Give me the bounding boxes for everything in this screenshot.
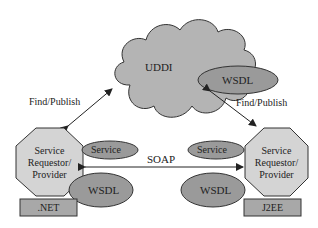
uddi-label: UDDI bbox=[145, 62, 173, 73]
right-find-publish-label: Find/Publish bbox=[236, 98, 287, 108]
left-service-label: Service bbox=[91, 145, 121, 155]
left-node-line-3: Provider bbox=[16, 169, 83, 181]
diagram-canvas bbox=[0, 0, 318, 228]
right-wsdl-label: WSDL bbox=[200, 185, 231, 196]
left-find-publish-label: Find/Publish bbox=[29, 97, 80, 107]
left-node-line-2: Requestor/ bbox=[16, 157, 83, 169]
left-find-publish-arrow bbox=[68, 89, 112, 126]
right-platform-label: J2EE bbox=[244, 203, 301, 213]
soap-label: SOAP bbox=[147, 154, 175, 165]
left-node-line-1: Service bbox=[16, 145, 83, 157]
right-service-label: Service bbox=[197, 145, 227, 155]
right-node-line-3: Provider bbox=[245, 169, 308, 181]
left-node-label: Service Requestor/ Provider bbox=[16, 145, 83, 181]
right-node-line-1: Service bbox=[245, 145, 308, 157]
registry-wsdl-label: WSDL bbox=[222, 75, 253, 86]
right-node-label: Service Requestor/ Provider bbox=[245, 145, 308, 181]
left-platform-label: .NET bbox=[20, 203, 77, 213]
right-node-line-2: Requestor/ bbox=[245, 157, 308, 169]
left-wsdl-label: WSDL bbox=[88, 185, 119, 196]
